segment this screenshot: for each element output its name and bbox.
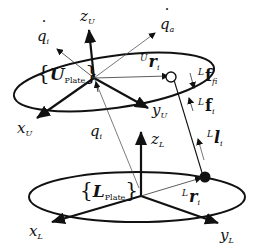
- upper-y-axis: [94, 78, 148, 108]
- lower-x-label: xL: [29, 224, 43, 241]
- lower-z-label: zL: [151, 132, 164, 149]
- upper-plate-frame-label: {UPlate}: [37, 63, 98, 85]
- upper-x-label: xU: [17, 121, 32, 138]
- upper-r-label: Uri: [140, 54, 160, 72]
- upper-y-label: yU: [152, 103, 167, 120]
- upper-joint: [166, 72, 176, 82]
- f-fi-label: Lffi: [198, 68, 217, 86]
- f-i-label: Lfi: [198, 98, 214, 116]
- l-i-label: Lli: [207, 130, 223, 148]
- l-i-arrow: [198, 139, 204, 160]
- f-fi-arrow: [190, 73, 194, 88]
- lower-y-axis: [141, 196, 218, 223]
- upper-z-label: zU: [80, 9, 95, 26]
- lower-plate-frame-label: {LPlate}: [80, 180, 138, 202]
- lower-r-label: Lri: [182, 189, 200, 207]
- lower-y-label: yL: [220, 228, 234, 245]
- qdot-i-label: ˙ qi: [37, 29, 49, 46]
- q-i-label: qi: [90, 124, 102, 141]
- qdot-a-label: ˙ qa: [160, 17, 174, 34]
- upper-r-vector: [94, 76, 168, 78]
- f-i-arrow: [189, 98, 193, 111]
- lower-joint: [200, 172, 211, 183]
- leg-line: [174, 80, 203, 176]
